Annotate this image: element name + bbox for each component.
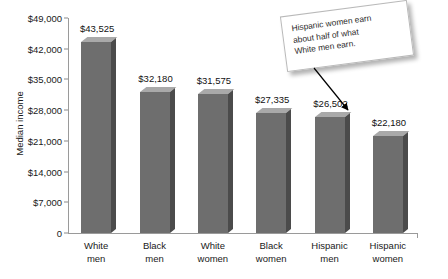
x-axis-category-label: Hispanicwomen bbox=[356, 240, 420, 265]
bar: $27,335 bbox=[256, 113, 286, 233]
y-axis-tick-label: 0 bbox=[0, 228, 62, 239]
category-label-line: Black bbox=[239, 240, 303, 253]
bar-front-face bbox=[81, 42, 111, 233]
category-label-line: Hispanic bbox=[298, 240, 362, 253]
bar-front-face bbox=[140, 92, 170, 233]
bar: $22,180 bbox=[373, 136, 403, 233]
bar-side-face bbox=[228, 91, 233, 233]
y-axis-tick-label: $35,000 bbox=[0, 74, 62, 85]
x-axis-endcap bbox=[417, 233, 418, 238]
bar-chart: Median income 0$7,000$14,000$21,000$28,0… bbox=[0, 0, 448, 279]
bar: $31,575 bbox=[198, 94, 228, 233]
bar: $43,525 bbox=[81, 42, 111, 233]
category-label-line: Hispanic bbox=[356, 240, 420, 253]
bar-front-face bbox=[256, 113, 286, 233]
x-axis-category-label: Whitewomen bbox=[181, 240, 245, 265]
y-axis-tick-label: $42,000 bbox=[0, 43, 62, 54]
bar-front-face bbox=[315, 117, 345, 233]
category-label-line: men bbox=[123, 253, 187, 266]
category-label-line: men bbox=[64, 253, 128, 266]
y-axis-tick-label: $14,000 bbox=[0, 166, 62, 177]
y-axis-title: Median income bbox=[14, 69, 25, 179]
bar: $32,180 bbox=[140, 92, 170, 233]
bar-front-face bbox=[198, 94, 228, 233]
x-axis-category-label: Blackmen bbox=[123, 240, 187, 265]
x-axis-category-label: Whitemen bbox=[64, 240, 128, 265]
bar-side-face bbox=[403, 132, 408, 233]
category-label-line: White bbox=[181, 240, 245, 253]
bar-value-label: $31,575 bbox=[179, 75, 249, 86]
bar-side-face bbox=[111, 38, 116, 233]
callout-text: Hispanic women earnabout half of whatWhi… bbox=[291, 9, 404, 58]
category-label-line: men bbox=[298, 253, 362, 266]
category-label-line: women bbox=[239, 253, 303, 266]
category-label-line: White bbox=[64, 240, 128, 253]
bar-front-face bbox=[373, 136, 403, 233]
category-label-line: women bbox=[356, 253, 420, 266]
x-axis-line bbox=[68, 233, 418, 234]
y-axis-tick-label: $7,000 bbox=[0, 197, 62, 208]
y-axis-tick-label: $49,000 bbox=[0, 13, 62, 24]
bar-value-label: $43,525 bbox=[62, 23, 132, 34]
category-label-line: Black bbox=[123, 240, 187, 253]
callout-arrow-icon bbox=[300, 58, 370, 120]
x-axis-category-label: Hispanicmen bbox=[298, 240, 362, 265]
bar: $26,502 bbox=[315, 117, 345, 233]
x-axis-category-label: Blackwomen bbox=[239, 240, 303, 265]
bar-side-face bbox=[345, 113, 350, 233]
y-axis-tick-label: $28,000 bbox=[0, 105, 62, 116]
bar-side-face bbox=[170, 88, 175, 233]
y-axis-tick-label: $21,000 bbox=[0, 135, 62, 146]
bar-side-face bbox=[286, 109, 291, 233]
category-label-line: women bbox=[181, 253, 245, 266]
